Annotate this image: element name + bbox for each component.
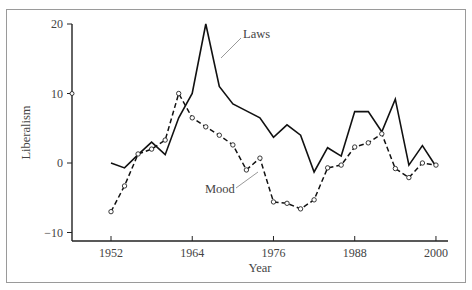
y-tick-label: −10 — [44, 226, 63, 240]
y-tick-label: 10 — [51, 87, 63, 101]
mood-marker — [177, 91, 181, 95]
mood-marker — [163, 138, 167, 142]
mood-marker — [271, 200, 275, 204]
line-chart: −100102019521964197619882000YearLiberali… — [0, 0, 472, 290]
axis-marker — [70, 92, 74, 96]
mood-marker — [285, 201, 289, 205]
x-tick-label: 1988 — [343, 246, 367, 260]
mood-marker — [109, 209, 113, 213]
x-axis-label: Year — [248, 261, 272, 275]
mood-marker — [366, 141, 370, 145]
mood-marker — [217, 133, 221, 137]
mood-marker — [407, 175, 411, 179]
x-tick-label: 2000 — [424, 246, 448, 260]
mood-marker — [434, 163, 438, 167]
mood-marker — [420, 161, 424, 165]
mood-annotation-leader — [236, 172, 258, 188]
x-tick-label: 1964 — [180, 246, 204, 260]
mood-marker — [258, 156, 262, 160]
y-tick-label: 20 — [51, 17, 63, 31]
laws-annotation-label: Laws — [243, 27, 270, 41]
mood-marker — [380, 132, 384, 136]
mood-marker — [353, 145, 357, 149]
mood-line — [111, 94, 436, 212]
laws-annotation-leader — [221, 38, 241, 58]
x-tick-label: 1976 — [261, 246, 285, 260]
mood-marker — [122, 184, 126, 188]
y-tick-label: 0 — [57, 156, 63, 170]
mood-marker — [204, 125, 208, 129]
x-tick-label: 1952 — [99, 246, 123, 260]
mood-marker — [298, 207, 302, 211]
mood-marker — [312, 198, 316, 202]
y-axis-label: Liberalism — [19, 105, 33, 159]
mood-marker — [339, 163, 343, 167]
mood-marker — [393, 166, 397, 170]
mood-marker — [136, 152, 140, 156]
mood-marker — [149, 147, 153, 151]
mood-marker — [190, 116, 194, 120]
mood-marker — [244, 168, 248, 172]
mood-marker — [325, 166, 329, 170]
mood-annotation-label: Mood — [205, 182, 236, 196]
mood-marker — [231, 143, 235, 147]
